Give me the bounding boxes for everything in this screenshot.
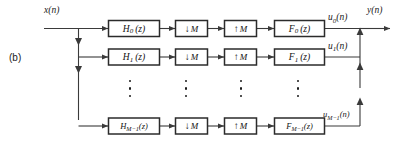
output-signal-text: y(n) [367,5,382,15]
up-arrow-icon: ↑ [234,121,239,131]
block-fm1-arg: (z) [304,121,313,131]
block-fm1-label: FM−1(z) [274,118,325,135]
block-h1-base: H [123,52,130,62]
input-signal-text: x(n) [44,5,59,15]
block-up-m-m1-text: M [240,121,248,131]
ellipsis-column-analysis [129,80,131,97]
block-f0-label: F0(z) [274,20,325,37]
block-hm1-label: HM−1(z) [108,118,160,135]
block-f1-subscript: 1 [295,56,299,64]
block-h1-arg: (z) [135,52,145,62]
ellipsis-column-decimator [185,80,187,97]
block-hm1-subscript: M−1 [126,125,138,132]
block-down-m-0-text: M [191,24,199,34]
panel-label: (b) [9,53,21,63]
block-down-m-0-label: ↓M [175,20,208,37]
subband-signal-0-arg: (n) [336,12,347,22]
block-f1-arg: (z) [300,52,310,62]
output-signal-label: y(n) [367,6,382,16]
subband-signal-1-label: u1(n) [328,42,347,52]
block-h0-subscript: 0 [130,27,134,35]
up-arrow-icon: ↑ [234,24,239,34]
block-up-m-1-label: ↑M [224,49,257,66]
subband-signal-0-subscript: 0 [333,17,337,25]
block-up-m-0-label: ↑M [224,20,257,37]
block-f0-subscript: 0 [295,27,299,35]
down-arrow-icon: ↓ [185,24,190,34]
subband-signal-m1-label: uM−1(n) [323,110,350,119]
block-up-m-m1-label: ↑M [224,118,257,135]
filter-bank-block-diagram: (b) x(n) y(n) H0(z) ↓M ↑M F0(z) u0(n) H1… [0,0,402,146]
block-h0-arg: (z) [135,24,145,34]
block-h0-label: H0(z) [108,20,160,37]
input-trunk [44,29,108,121]
summing-bus [360,29,390,127]
subband-signal-0-label: u0(n) [328,13,347,23]
block-down-m-m1-label: ↓M [175,118,208,135]
block-f0-arg: (z) [300,24,310,34]
block-down-m-1-text: M [191,52,199,62]
down-arrow-icon: ↓ [185,121,190,131]
ellipsis-column-interpolator [240,80,242,97]
block-up-m-1-text: M [240,52,248,62]
block-h0-base: H [123,24,130,34]
subband-signal-1-subscript: 1 [333,45,337,53]
subband-signal-1-arg: (n) [336,41,347,51]
subband-signal-m1-arg: (n) [340,109,350,119]
block-h1-subscript: 1 [130,56,134,64]
block-f1-label: F1(z) [274,49,325,66]
input-signal-label: x(n) [44,6,59,16]
block-hm1-arg: (z) [139,121,148,131]
subband-signal-m1-subscript: M−1 [327,114,339,121]
down-arrow-icon: ↓ [185,52,190,62]
block-h1-label: H1(z) [108,49,160,66]
block-up-m-0-text: M [240,24,248,34]
block-fm1-subscript: M−1 [291,125,303,132]
block-down-m-1-label: ↓M [175,49,208,66]
up-arrow-icon: ↑ [234,52,239,62]
block-down-m-m1-text: M [191,121,199,131]
ellipsis-column-synthesis [297,80,299,97]
